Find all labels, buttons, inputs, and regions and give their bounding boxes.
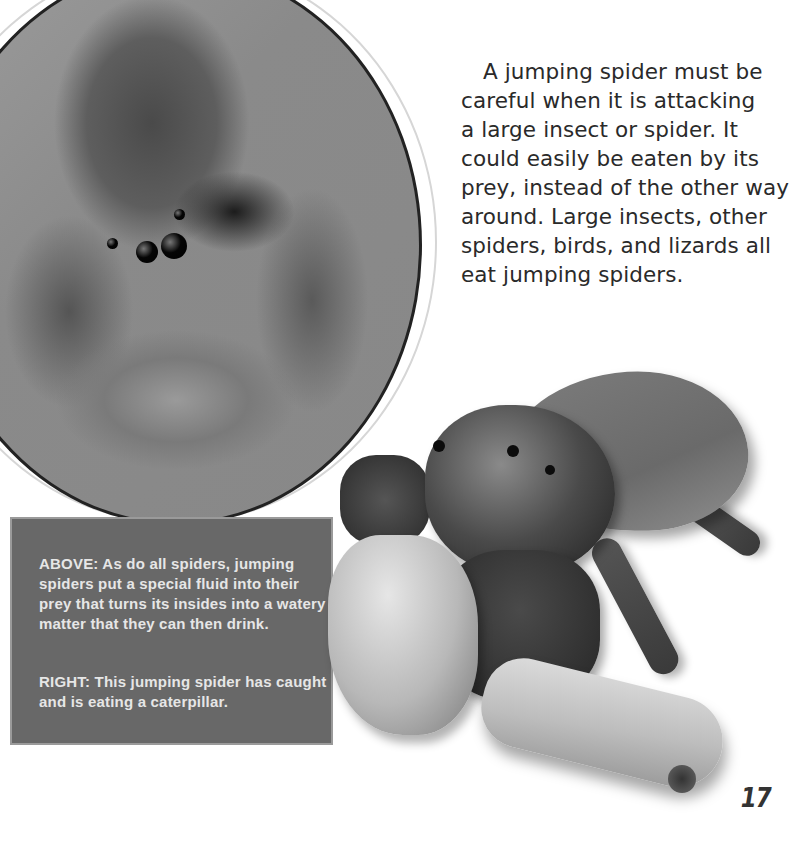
caption-above: ABOVE: As do all spiders, jumping spider… <box>39 554 329 634</box>
caption-right: RIGHT: This jumping spider has caught an… <box>39 672 329 712</box>
spider-eye-icon <box>107 238 118 249</box>
spider-eye-icon <box>433 440 445 452</box>
body-line: A jumping spider must be <box>461 57 791 86</box>
body-paragraph: A jumping spider must be careful when it… <box>461 57 791 289</box>
body-line: careful when it is attacking <box>461 86 791 115</box>
spider-eye-icon <box>545 465 555 475</box>
caterpillar-head <box>668 765 696 793</box>
caption-above-label: ABOVE: <box>39 555 99 572</box>
body-line: could easily be eaten by its <box>461 144 791 173</box>
spider-eye-icon <box>507 445 519 457</box>
book-page: A jumping spider must be careful when it… <box>0 0 793 859</box>
spider-eye-icon <box>161 233 187 259</box>
spider-leg <box>587 533 684 680</box>
spider-eye-icon <box>174 209 185 220</box>
body-line: around. Large insects, other <box>461 202 791 231</box>
body-line: spiders, birds, and lizards all <box>461 231 791 260</box>
body-line-text: A jumping spider must be <box>483 59 763 84</box>
body-line: a large insect or spider. It <box>461 115 791 144</box>
body-line: prey, instead of the other way <box>461 173 791 202</box>
page-number: 17 <box>741 782 771 813</box>
spider-eye-icon <box>136 241 158 263</box>
spider-leg <box>340 455 430 545</box>
cutout-photo-spider-eating-caterpillar <box>330 360 793 830</box>
body-line: eat jumping spiders. <box>461 260 791 289</box>
caterpillar-body <box>328 535 478 735</box>
caption-right-label: RIGHT: <box>39 673 90 690</box>
caption-box: ABOVE: As do all spiders, jumping spider… <box>10 517 333 745</box>
